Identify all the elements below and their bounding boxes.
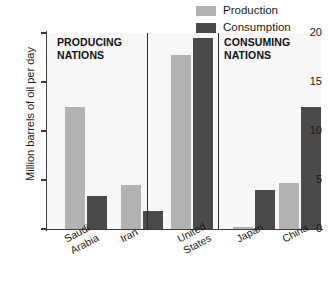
section-title-producing-nations: PRODUCING NATIONS bbox=[57, 36, 122, 61]
y-tick-0 bbox=[41, 228, 47, 229]
y-tick-label-5: 5 bbox=[287, 173, 328, 185]
y-tick-5 bbox=[41, 179, 47, 180]
y-tick-label-10: 10 bbox=[287, 124, 328, 136]
legend-item-production: Production bbox=[196, 3, 291, 18]
legend-swatch-production bbox=[196, 6, 216, 16]
panel-divider-1 bbox=[147, 33, 148, 230]
legend-label-consumption: Consumption bbox=[223, 22, 291, 33]
y-tick-10 bbox=[41, 130, 47, 131]
panel-divider-2 bbox=[218, 33, 219, 230]
legend-label-production: Production bbox=[223, 5, 278, 16]
bar-iran-consumption bbox=[143, 211, 163, 229]
oil-production-consumption-chart: Production Consumption Million barrels o… bbox=[0, 0, 328, 284]
bar-united-states-consumption bbox=[193, 38, 213, 229]
bar-saudi-arabia-production bbox=[65, 107, 85, 229]
y-tick-label-15: 15 bbox=[287, 75, 328, 87]
y-tick-label-20: 20 bbox=[287, 26, 328, 38]
section-title-consuming-nations: CONSUMING NATIONS bbox=[224, 36, 290, 61]
chart-legend: Production Consumption bbox=[196, 3, 291, 37]
bar-iran-production bbox=[121, 185, 141, 229]
legend-swatch-consumption bbox=[196, 23, 216, 33]
bars-layer bbox=[47, 33, 321, 229]
y-axis-title: Million barrels of oil per day bbox=[24, 24, 36, 204]
y-tick-15 bbox=[41, 81, 47, 82]
bar-united-states-production bbox=[171, 55, 191, 229]
y-tick-20 bbox=[41, 32, 47, 33]
